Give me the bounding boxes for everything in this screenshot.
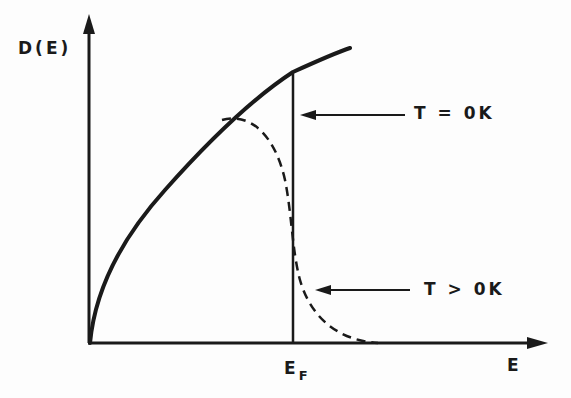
t-positive-arrow [315, 285, 410, 295]
finite-temperature-curve [222, 118, 378, 343]
t-positive-label: T > 0K [424, 279, 505, 299]
dos-diagram: D(E) E EF T = 0K T > 0K [0, 0, 571, 398]
arrow-left-icon [300, 110, 316, 120]
t-zero-label: T = 0K [414, 103, 495, 123]
y-axis-arrow-icon [83, 14, 95, 34]
diagram-canvas [0, 0, 571, 398]
t-zero-arrow [300, 110, 405, 120]
y-axis-label: D(E) [18, 38, 71, 58]
x-axis [88, 337, 548, 349]
y-axis [83, 14, 95, 343]
fermi-label-subscript: F [299, 368, 308, 383]
dos-curve [90, 48, 350, 343]
arrow-left-icon [315, 285, 331, 295]
fermi-energy-label: EF [284, 358, 308, 378]
x-axis-arrow-icon [527, 337, 548, 349]
x-axis-label: E [507, 355, 522, 375]
fermi-label-main: E [284, 358, 299, 378]
